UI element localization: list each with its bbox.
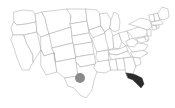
texas-marker[interactable] xyxy=(75,73,85,83)
state-me[interactable]: Maine xyxy=(158,7,169,20)
state-la[interactable]: Louisiana xyxy=(94,60,111,73)
us-choropleth-map: WashingtonOregonCaliforniaNevadaIdahoMon… xyxy=(0,0,175,108)
state-mi[interactable]: Michigan xyxy=(110,12,120,32)
markers-layer xyxy=(75,73,85,83)
states-layer: WashingtonOregonCaliforniaNevadaIdahoMon… xyxy=(11,7,169,98)
us-map-svg: WashingtonOregonCaliforniaNevadaIdahoMon… xyxy=(0,0,175,108)
state-fl[interactable]: Florida xyxy=(126,73,144,88)
